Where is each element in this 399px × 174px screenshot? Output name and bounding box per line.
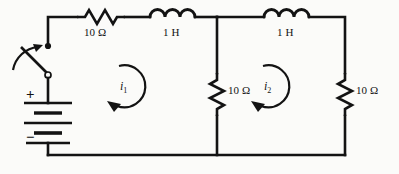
switch-close-arrow-head bbox=[33, 44, 43, 52]
resistor-10-ohm-middle bbox=[210, 73, 224, 116]
circuit-schematic-svg bbox=[0, 0, 399, 174]
inductor-1h-top-left bbox=[150, 10, 195, 17]
switch-open[interactable] bbox=[13, 44, 51, 78]
battery-minus-label: − bbox=[26, 130, 35, 145]
resistor-10-ohm-top-left-label: 10 Ω bbox=[84, 27, 106, 38]
mesh-current-i2-label: i2 bbox=[264, 80, 271, 95]
node-switch-top-terminal bbox=[45, 43, 51, 49]
resistor-10-ohm-right bbox=[338, 73, 352, 116]
resistor-10-ohm-right-label: 10 Ω bbox=[356, 85, 378, 96]
resistor-10-ohm-top-left bbox=[77, 10, 125, 24]
inductor-1h-top-left-label: 1 H bbox=[163, 27, 180, 38]
inductor-1h-top-right-label: 1 H bbox=[277, 27, 294, 38]
mesh-current-i1-label: i1 bbox=[120, 80, 127, 95]
inductor-1h-top-right bbox=[264, 10, 309, 17]
battery-plus-label: + bbox=[26, 87, 35, 102]
wire-top-right-corner bbox=[309, 17, 345, 73]
mesh-current-i2-subscript: 2 bbox=[267, 86, 271, 95]
mesh-current-i1-subscript: 1 bbox=[123, 86, 127, 95]
resistor-10-ohm-middle-label: 10 Ω bbox=[228, 85, 250, 96]
wire-top-left-corner bbox=[48, 17, 77, 46]
circuit-diagram-canvas: 10 Ω 1 H 1 H 10 Ω 10 Ω + − i1 i2 bbox=[0, 0, 399, 174]
